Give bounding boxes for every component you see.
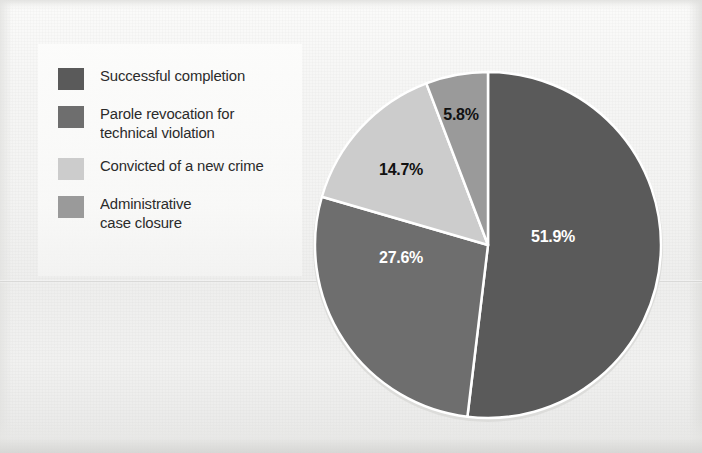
scan-edge-top [0,0,702,10]
legend-item: Parole revocation for technical violatio… [58,104,308,142]
legend-swatch-icon [58,106,84,128]
legend-item: Administrative case closure [58,194,308,232]
chart-legend: Successful completion Parole revocation … [58,66,308,232]
paper-fold-line [0,280,702,283]
legend-swatch-icon [58,196,84,218]
scan-edge-bottom [0,419,702,453]
legend-item-label: Parole revocation for technical violatio… [100,104,234,142]
legend-item-label: Successful completion [100,66,245,85]
legend-item: Successful completion [58,66,308,90]
legend-item: Convicted of a new crime [58,156,308,180]
scan-edge-left [0,0,12,453]
legend-item-label: Administrative case closure [100,194,191,232]
legend-swatch-icon [58,158,84,180]
legend-item-label: Convicted of a new crime [100,156,264,175]
scan-edge-right [688,0,702,453]
legend-swatch-icon [58,68,84,90]
chart-page: Successful completion Parole revocation … [0,0,702,453]
